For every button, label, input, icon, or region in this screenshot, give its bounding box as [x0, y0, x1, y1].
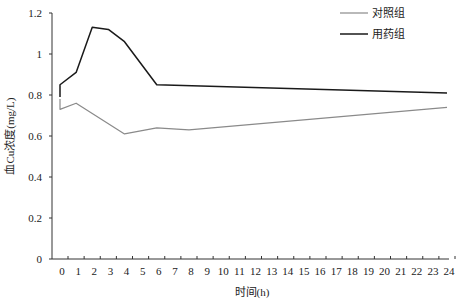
x-tick-label: 22 [411, 265, 422, 277]
x-tick-label: 23 [427, 265, 439, 277]
axes [52, 13, 449, 259]
x-tick-label: 19 [363, 265, 375, 277]
x-tick-label: 12 [250, 265, 261, 277]
line-chart: 00.20.40.60.811.2 0123456789101112131415… [0, 0, 462, 306]
y-ticks: 00.20.40.60.811.2 [28, 7, 52, 265]
x-tick-label: 16 [315, 265, 327, 277]
x-axis-label: 时间(h) [235, 286, 270, 299]
x-tick-label: 9 [204, 265, 210, 277]
x-tick-label: 24 [444, 265, 456, 277]
data-series [60, 27, 447, 134]
x-tick-label: 1 [75, 265, 81, 277]
y-axis-label: 血Cu浓度(mg/L) [3, 97, 17, 174]
x-tick-label: 5 [140, 265, 146, 277]
y-tick-label: 1.2 [28, 7, 42, 19]
x-tick-label: 13 [266, 265, 278, 277]
x-tick-label: 7 [172, 265, 178, 277]
y-tick-label: 0.8 [28, 89, 42, 101]
x-tick-label: 3 [108, 265, 114, 277]
y-tick-label: 0.6 [28, 130, 42, 142]
x-tick-label: 15 [298, 265, 310, 277]
x-tick-label: 20 [379, 265, 391, 277]
series-line-0 [60, 99, 447, 134]
x-tick-label: 11 [234, 265, 245, 277]
x-tick-label: 21 [395, 265, 406, 277]
x-tick-label: 2 [92, 265, 98, 277]
x-tick-label: 0 [59, 265, 65, 277]
y-tick-label: 1 [37, 48, 43, 60]
x-tick-label: 14 [282, 265, 294, 277]
y-tick-label: 0.4 [28, 171, 42, 183]
x-tick-label: 4 [124, 265, 130, 277]
legend-label: 对照组 [372, 6, 405, 20]
x-tick-label: 17 [331, 265, 343, 277]
x-tick-label: 8 [188, 265, 194, 277]
y-tick-label: 0.2 [28, 212, 42, 224]
x-tick-label: 18 [347, 265, 359, 277]
legend-label: 用药组 [372, 27, 405, 41]
x-tick-label: 6 [156, 265, 162, 277]
y-tick-label: 0 [37, 253, 43, 265]
x-tick-label: 10 [218, 265, 230, 277]
legend: 对照组用药组 [340, 6, 405, 41]
